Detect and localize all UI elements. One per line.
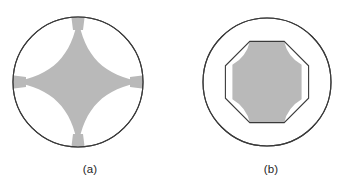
astroid-cusp-stem-top	[72, 18, 85, 30]
figure-panel-a: (a)	[0, 0, 180, 190]
figure-plate: (a) (b)	[0, 0, 361, 190]
astroid-cusp-stem-right	[130, 76, 142, 89]
figure-a-drawing	[0, 0, 180, 160]
astroid-cusp-stem-left	[14, 76, 26, 89]
caption-a: (a)	[0, 162, 180, 176]
caption-b: (b)	[181, 162, 361, 176]
figure-panel-b: (b)	[181, 0, 361, 190]
figure-b-drawing	[181, 0, 361, 160]
astroid-cusp-stem-bottom	[72, 134, 85, 146]
